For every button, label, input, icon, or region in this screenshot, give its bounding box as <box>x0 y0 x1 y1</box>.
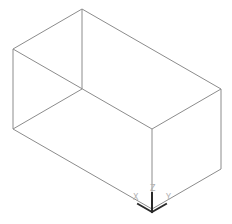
wireframe-canvas[interactable]: Z X Y <box>0 0 232 224</box>
edge-top-back-left <box>13 9 82 49</box>
edge-top-back-right <box>82 9 221 89</box>
ucs-axis-icon: Z X Y <box>133 184 171 212</box>
edge-top-right-front <box>152 89 221 129</box>
box-wireframe[interactable] <box>13 9 221 209</box>
x-axis-label: X <box>133 193 139 202</box>
edge-bottom-left-front <box>13 129 152 209</box>
y-axis-label: Y <box>165 193 171 202</box>
edge-bottom-right-front <box>152 169 221 209</box>
3d-viewport[interactable]: Z X Y <box>0 0 232 224</box>
edge-bottom-back-left <box>13 89 82 129</box>
z-axis-label: Z <box>150 184 156 193</box>
